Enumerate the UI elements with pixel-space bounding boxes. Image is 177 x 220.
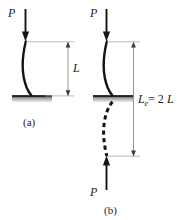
panel-b-column-curve [104, 42, 113, 96]
panel-b-dimension-label-group: L e = 2 L [137, 92, 174, 108]
panel-a-load-arrow-down [22, 9, 29, 42]
panel-b-load-label-bottom: P [89, 185, 98, 199]
panel-b-caption: (b) [104, 204, 117, 217]
panel-a-dimension-label: L [72, 61, 80, 75]
panel-a-column-curve [23, 42, 32, 96]
panel-b-dimension-label-equals: = 2 [148, 92, 164, 106]
panel-b-load-arrow-down [103, 9, 110, 42]
panel-a-caption: (a) [23, 116, 36, 129]
buckling-figure-root: P L (a [0, 0, 177, 220]
panel-b-dimension-label-value: L [166, 92, 174, 106]
panel-b: P P [89, 6, 174, 217]
panel-a-base-support [12, 96, 52, 102]
panel-a-dimension-line [66, 42, 71, 96]
panel-a: P L (a [7, 6, 80, 129]
panel-a-load-label: P [7, 6, 16, 20]
buckling-figure-svg: P L (a [0, 0, 177, 220]
panel-b-base-support [93, 96, 133, 102]
panel-b-load-label-top: P [89, 6, 98, 20]
panel-b-load-arrow-up [103, 156, 110, 191]
panel-b-mirror-curve-dashed [104, 102, 113, 156]
